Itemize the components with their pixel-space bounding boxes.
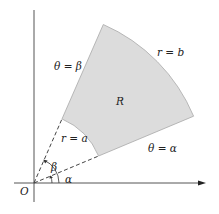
label-r-b: r = b [157,46,184,58]
polar-region-diagram: θ = β r = b R r = a θ = α β α O [0,0,219,214]
label-angle-alpha: α [65,173,72,185]
label-r-a: r = a [61,132,88,144]
label-theta-beta: θ = β [54,60,82,72]
label-region-r: R [115,95,124,107]
ray-beta-dashed [34,119,62,183]
label-theta-alpha: θ = α [148,142,177,154]
angle-alpha-arrow-icon [49,175,53,178]
x-axis-arrow-icon [198,181,206,186]
label-angle-beta: β [50,161,57,173]
label-origin: O [20,185,29,197]
